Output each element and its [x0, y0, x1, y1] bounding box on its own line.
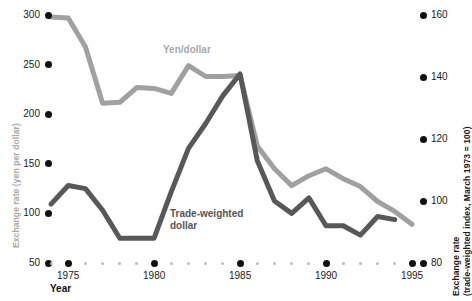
- right-tick-label-140: 140: [431, 71, 448, 82]
- series-label-yen-dollar: Yen/dollar: [163, 44, 211, 56]
- x-tick-label-1980: 1980: [134, 270, 174, 281]
- x-minor-tick-dot-1994: [393, 262, 396, 265]
- right-tick-dot-140: [420, 74, 427, 81]
- x-minor-tick-dot-1986: [256, 262, 259, 265]
- x-minor-tick-dot-1977: [101, 262, 104, 265]
- right-tick-dot-80: [420, 260, 427, 267]
- x-minor-tick-dot-1993: [376, 262, 379, 265]
- right-tick-label-100: 100: [431, 195, 448, 206]
- right-tick-label-80: 80: [431, 257, 442, 268]
- series-label-twd-line1: Trade-weighted: [170, 208, 243, 219]
- right-tick-dot-160: [420, 12, 427, 19]
- x-minor-tick-dot-1991: [342, 262, 345, 265]
- x-minor-tick-dot-1992: [359, 262, 362, 265]
- x-minor-tick-dot-1983: [204, 262, 207, 265]
- x-tick-dot-1985: [237, 260, 244, 267]
- left-tick-label-200: 200: [6, 108, 40, 119]
- left-tick-label-250: 250: [6, 59, 40, 70]
- right-tick-dot-120: [420, 136, 427, 143]
- x-tick-dot-1990: [323, 260, 330, 267]
- series-label-twd-line2: dollar: [170, 220, 197, 231]
- x-minor-tick-dot-1974: [50, 262, 53, 265]
- x-tick-dot-1975: [65, 260, 72, 267]
- x-minor-tick-dot-1988: [290, 262, 293, 265]
- x-minor-tick-dot-1981: [170, 262, 173, 265]
- series-label-trade-weighted-dollar: Trade-weighteddollar: [170, 208, 243, 231]
- right-tick-label-160: 160: [431, 9, 448, 20]
- x-minor-tick-dot-1976: [84, 262, 87, 265]
- left-tick-label-50: 50: [6, 257, 40, 268]
- left-tick-dot-100: [45, 210, 52, 217]
- x-minor-tick-dot-1978: [118, 262, 121, 265]
- x-tick-label-1985: 1985: [220, 270, 260, 281]
- x-tick-dot-1995: [409, 260, 416, 267]
- x-minor-tick-dot-1982: [187, 262, 190, 265]
- x-tick-label-1975: 1975: [48, 270, 88, 281]
- left-tick-label-150: 150: [6, 158, 40, 169]
- right-tick-label-120: 120: [431, 133, 448, 144]
- x-minor-tick-dot-1987: [273, 262, 276, 265]
- left-tick-dot-300: [45, 12, 52, 19]
- x-tick-label-1990: 1990: [306, 270, 346, 281]
- right-tick-dot-100: [420, 198, 427, 205]
- left-tick-label-300: 300: [6, 9, 40, 20]
- x-tick-dot-1980: [151, 260, 158, 267]
- left-tick-dot-200: [45, 111, 52, 118]
- series-line-yen-dollar: [51, 17, 412, 224]
- x-axis-title: Year: [50, 283, 71, 294]
- x-tick-label-1995: 1995: [392, 270, 432, 281]
- left-tick-label-100: 100: [6, 207, 40, 218]
